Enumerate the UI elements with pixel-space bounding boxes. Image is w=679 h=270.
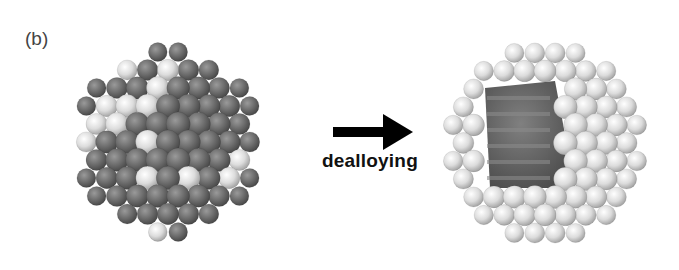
- right-arrow-icon: [333, 112, 415, 152]
- arrow-caption: dealloying: [322, 150, 418, 172]
- alloy-nanoparticle: [76, 43, 259, 242]
- dealloying-arrow: [333, 112, 415, 152]
- dealloyed-nanoparticle: [443, 43, 646, 243]
